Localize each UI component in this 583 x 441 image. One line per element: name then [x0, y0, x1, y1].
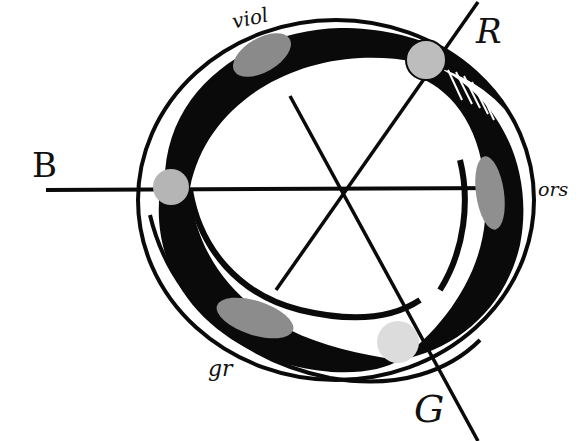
- label-gr: gr: [208, 358, 233, 380]
- axis-B: [46, 188, 512, 190]
- label-R: R: [476, 14, 502, 48]
- dot-B: [153, 169, 189, 205]
- label-ors: ors: [538, 180, 568, 199]
- dot-G: [377, 321, 419, 363]
- color-ring-diagram: [0, 0, 583, 441]
- dot-R: [406, 40, 446, 80]
- ring-band-top: [165, 28, 505, 190]
- label-B: B: [32, 148, 57, 182]
- inner-spiral-edge-right: [440, 160, 465, 290]
- label-G: G: [414, 390, 444, 428]
